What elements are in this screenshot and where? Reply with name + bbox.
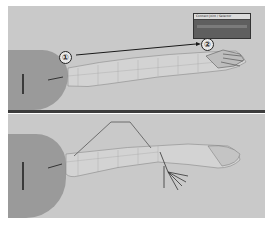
connect-joint-dialog[interactable]: Connect Joint / Selector — [193, 13, 251, 39]
viewport-top[interactable]: ① ② Connect Joint / Selector — [8, 6, 265, 110]
dialog-field[interactable] — [197, 25, 247, 28]
arm-mesh-bottom — [8, 114, 265, 218]
marker-1: ① — [59, 51, 72, 64]
dialog-titlebar[interactable]: Connect Joint / Selector — [194, 14, 250, 20]
panel-divider — [8, 110, 265, 113]
marker-2: ② — [201, 38, 214, 51]
viewport-bottom[interactable] — [8, 114, 265, 218]
